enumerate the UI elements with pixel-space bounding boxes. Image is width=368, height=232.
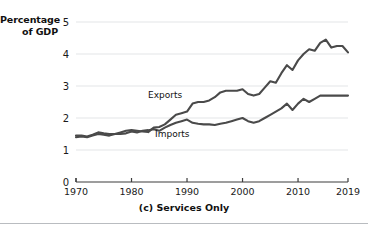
series-label-exports: Exports: [148, 90, 182, 100]
y-axis-ticks-group: 012345: [63, 17, 69, 188]
chart-canvas: 012345 197019801990200020102019 Exports …: [0, 0, 368, 232]
x-tick-label: 2000: [230, 186, 254, 197]
y-tick-label: 3: [63, 81, 69, 92]
x-tick-label: 1990: [175, 186, 199, 197]
data-line-imports: [76, 96, 348, 138]
bottom-divider: [0, 223, 368, 224]
y-tick-label: 5: [63, 17, 69, 28]
x-axis-group: 197019801990200020102019: [64, 178, 360, 197]
x-tick-label: 2019: [336, 186, 360, 197]
y-tick-label: 1: [63, 145, 69, 156]
x-tick-label: 1970: [64, 186, 88, 197]
series-label-imports: Imports: [155, 129, 190, 139]
x-tick-label: 2010: [286, 186, 310, 197]
chart-figure: Percentage of GDP 012345 197019801990200…: [0, 0, 368, 232]
y-tick-label: 4: [63, 49, 69, 60]
y-tick-label: 2: [63, 113, 69, 124]
x-tick-label: 1980: [119, 186, 143, 197]
figure-caption: (c) Services Only: [0, 202, 368, 213]
gridlines-group: [76, 22, 348, 150]
